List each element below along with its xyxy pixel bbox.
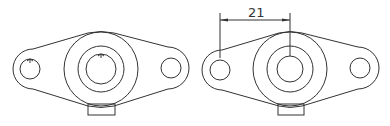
right-boss-bore-circle [277,56,303,82]
right-view: 21 [202,5,379,115]
technical-drawing: 21 [0,0,390,126]
left-boss-outer-circle [64,32,138,106]
left-view [13,32,189,116]
left-flange-outline [13,33,189,106]
right-hole-left [210,60,230,80]
right-hole-right [350,58,370,78]
dimension-label: 21 [248,5,265,20]
arrow-left-icon [220,19,228,22]
left-hole-right [161,58,181,78]
arrow-right-icon [282,19,290,22]
left-boss-bore-circle [86,54,116,84]
left-boss-middle-circle [78,46,124,92]
dimension-21: 21 [220,5,290,58]
